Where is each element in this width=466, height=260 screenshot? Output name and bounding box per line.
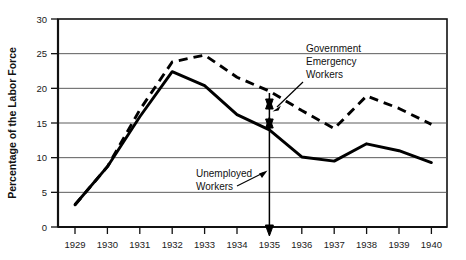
unemployment-line-chart: 30 25 20 15 10 5 0 Percentage of the Lab… — [0, 0, 466, 260]
x-tick-label-1940: 1940 — [421, 239, 442, 250]
x-tick-label-1938: 1938 — [356, 239, 377, 250]
y-tick-label-15: 15 — [36, 118, 47, 129]
annotation-gov-line-1: Government — [306, 43, 361, 54]
annotation-unemp-line-2: Workers — [196, 181, 233, 192]
chart-background — [0, 0, 466, 260]
x-tick-label-1933: 1933 — [194, 239, 215, 250]
y-tick-label-30: 30 — [36, 14, 47, 25]
y-tick-label-10: 10 — [36, 152, 47, 163]
y-tick-label-0: 0 — [42, 222, 47, 233]
x-tick-label-1935: 1935 — [259, 239, 280, 250]
annotation-unemp-line-1: Unemployed — [196, 168, 252, 179]
annotation-gov-line-2: Emergency — [306, 56, 357, 67]
annotation-gov-line-3: Workers — [306, 69, 343, 80]
x-tick-label-1931: 1931 — [129, 239, 150, 250]
y-tick-label-20: 20 — [36, 83, 47, 94]
x-tick-label-1937: 1937 — [324, 239, 345, 250]
x-tick-label-1934: 1934 — [226, 239, 247, 250]
x-tick-label-1939: 1939 — [388, 239, 409, 250]
y-tick-label-5: 5 — [42, 187, 47, 198]
x-tick-label-1936: 1936 — [291, 239, 312, 250]
y-tick-label-25: 25 — [36, 48, 47, 59]
x-tick-label-1929: 1929 — [64, 239, 85, 250]
y-axis-title: Percentage of the Labor Force — [6, 47, 18, 199]
chart-container: 30 25 20 15 10 5 0 Percentage of the Lab… — [0, 0, 466, 260]
x-tick-label-1932: 1932 — [162, 239, 183, 250]
x-tick-label-1930: 1930 — [97, 239, 118, 250]
